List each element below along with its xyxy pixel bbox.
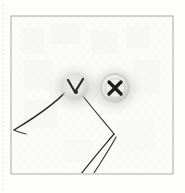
figure-root: Two sewn buttons with thread Left button… <box>0 0 185 193</box>
illustration-canvas <box>0 0 185 193</box>
left-stitch-knot <box>74 90 78 94</box>
left-button <box>62 74 88 100</box>
